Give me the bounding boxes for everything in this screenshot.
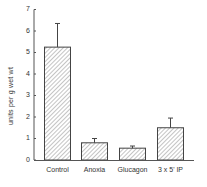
y-tick-label: 3 <box>20 91 30 98</box>
y-tick-label: 6 <box>20 27 30 34</box>
bars-group <box>45 23 184 160</box>
bar <box>158 128 184 160</box>
bar <box>120 148 146 160</box>
chart-canvas <box>0 0 207 187</box>
y-tick-label: 7 <box>20 5 30 12</box>
y-tick-label: 2 <box>20 113 30 120</box>
x-category-label: 3 x 5' IP <box>146 166 196 173</box>
bar <box>82 143 108 160</box>
y-axis-label: units per g wet wt <box>7 46 19 146</box>
y-tick-label: 1 <box>20 134 30 141</box>
y-tick-label: 4 <box>20 70 30 77</box>
y-tick-label: 5 <box>20 48 30 55</box>
y-tick-label: 0 <box>20 156 30 163</box>
bar <box>45 47 71 160</box>
bar-chart: units per g wet wt 01234567 ControlAnoxi… <box>0 0 207 187</box>
